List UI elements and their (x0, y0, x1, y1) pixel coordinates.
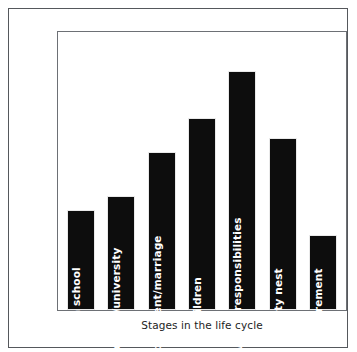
bar-family-work-responsibilities: Family/work responsibilities (228, 71, 256, 310)
figure-frame: Relative Intensity of time constraints H… (8, 8, 348, 348)
bar-series: High school College/university Employmen… (58, 32, 346, 310)
bar-label-college-university: College/university (111, 247, 122, 352)
bar-label-family-work-responsibilities: Family/work responsibilities (232, 217, 243, 352)
bar-retirement: Retirement (309, 235, 337, 310)
bar-label-employment-marriage: Employment/marriage (151, 235, 162, 352)
bar-empty-nest: Empty nest (269, 138, 297, 310)
plot-area: High school College/university Employmen… (57, 31, 347, 311)
bar-children: Children (188, 118, 216, 310)
bar-employment-marriage: Employment/marriage (148, 152, 176, 310)
x-axis-title: Stages in the life cycle (57, 319, 347, 331)
bar-college-university: College/university (107, 196, 135, 310)
bar-high-school: High school (67, 210, 95, 310)
